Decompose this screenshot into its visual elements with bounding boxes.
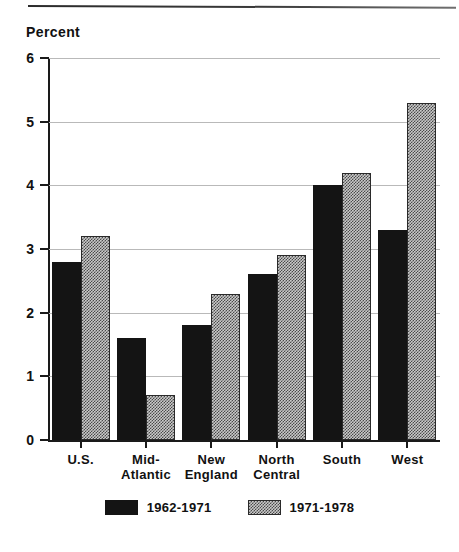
y-axis-tick-label: 5 bbox=[26, 115, 34, 129]
y-axis-tick-label: 0 bbox=[26, 433, 34, 447]
bar-1-5 bbox=[407, 103, 436, 440]
bar-1-3 bbox=[277, 255, 306, 440]
gridline bbox=[48, 122, 440, 123]
y-axis-tick bbox=[40, 312, 49, 314]
y-axis-tick-label: 6 bbox=[26, 51, 34, 65]
y-axis-tick bbox=[40, 248, 49, 250]
y-axis-tick-label: 4 bbox=[26, 178, 34, 192]
bar-1-2 bbox=[211, 294, 240, 440]
y-axis-tick-label: 1 bbox=[26, 369, 34, 383]
x-axis-category-label: U.S. bbox=[67, 452, 93, 467]
bar-1-0 bbox=[81, 236, 110, 440]
legend-label-0: 1962-1971 bbox=[147, 500, 212, 515]
x-axis-tick bbox=[406, 440, 408, 448]
legend-swatch-0 bbox=[105, 500, 138, 515]
bar-0-5 bbox=[378, 230, 407, 440]
x-axis-tick bbox=[276, 440, 278, 448]
legend-item-1: 1971-1978 bbox=[248, 500, 355, 515]
x-axis-line bbox=[48, 440, 440, 442]
bar-1-1 bbox=[146, 395, 175, 440]
chart-legend: 1962-19711971-1978 bbox=[0, 500, 459, 515]
x-axis-category-label: New England bbox=[185, 452, 238, 482]
bar-0-3 bbox=[248, 274, 277, 440]
bar-1-4 bbox=[342, 173, 371, 440]
x-axis-category-label: North Central bbox=[253, 452, 300, 482]
legend-label-1: 1971-1978 bbox=[290, 500, 355, 515]
gridline bbox=[48, 185, 440, 186]
bar-0-2 bbox=[182, 325, 211, 440]
y-axis-tick-label: 3 bbox=[26, 242, 34, 256]
y-axis-tick bbox=[40, 439, 49, 441]
bar-0-1 bbox=[117, 338, 146, 440]
y-axis-title: Percent bbox=[26, 24, 80, 40]
x-axis-tick bbox=[80, 440, 82, 448]
legend-swatch-1 bbox=[248, 500, 281, 515]
x-axis-tick bbox=[341, 440, 343, 448]
chart-plot-area: 0123456 U.S.Mid- AtlanticNew EnglandNort… bbox=[48, 58, 440, 440]
y-axis-tick bbox=[40, 375, 49, 377]
x-axis-tick bbox=[210, 440, 212, 448]
y-axis-tick bbox=[40, 121, 49, 123]
y-axis-tick bbox=[40, 57, 49, 59]
gridline bbox=[48, 58, 440, 59]
y-axis-tick bbox=[40, 184, 49, 186]
page-top-rule bbox=[28, 5, 456, 9]
x-axis-category-label: South bbox=[323, 452, 361, 467]
y-axis-tick-label: 2 bbox=[26, 306, 34, 320]
x-axis-tick bbox=[145, 440, 147, 448]
bar-0-4 bbox=[313, 185, 342, 440]
x-axis-category-label: Mid- Atlantic bbox=[121, 452, 171, 482]
legend-item-0: 1962-1971 bbox=[105, 500, 212, 515]
bar-0-0 bbox=[52, 262, 81, 440]
x-axis-category-label: West bbox=[391, 452, 423, 467]
